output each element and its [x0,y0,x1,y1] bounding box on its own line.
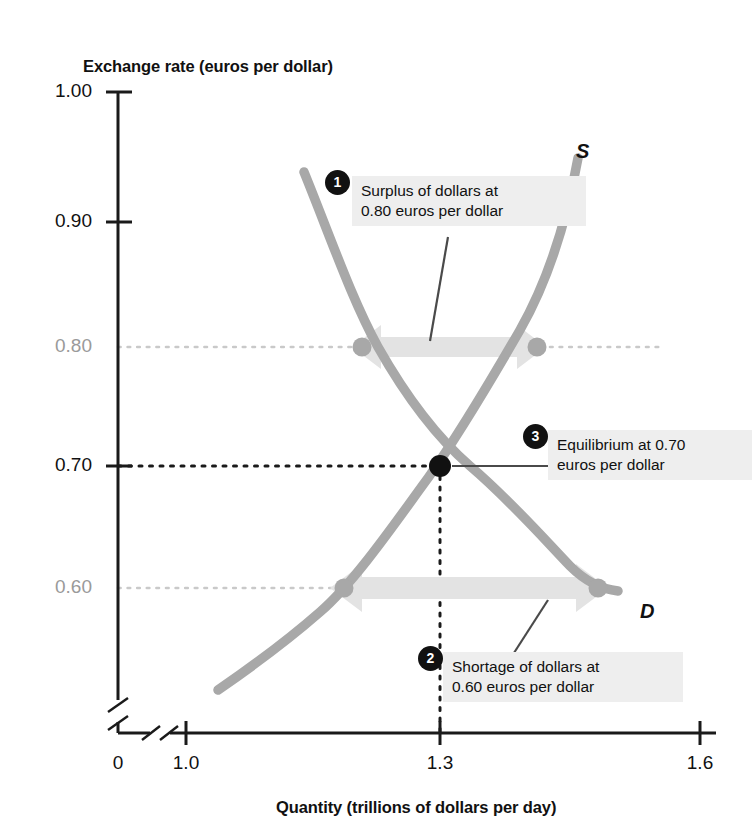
demand-curve [304,172,618,591]
supply-curve-label: S [576,140,589,163]
y-tick-label-090: 0.90 [20,210,92,232]
demand-curve-label: D [640,600,654,623]
callout-2-badge: 2 [418,646,443,671]
supply-curve [218,158,578,690]
callout-2-text: Shortage of dollars at 0.60 euros per do… [443,652,683,702]
callout-3-text: Equilibrium at 0.70 euros per dollar [548,430,752,480]
y-tick-label-080: 0.80 [20,335,92,357]
callout-1-badge: 1 [325,170,350,195]
x-tick-label-16: 1.6 [665,752,735,774]
callout-1-text: Surplus of dollars at 0.80 euros per dol… [352,176,586,226]
x-axis-title: Quantity (trillions of dollars per day) [276,798,556,817]
quantity-demanded-at-080-marker [353,338,372,357]
x-tick-label-13: 1.3 [405,752,475,774]
shortage-arrow [330,564,608,612]
y-tick-label-060: 0.60 [20,576,92,598]
y-axis-title: Exchange rate (euros per dollar) [83,57,333,76]
y-tick-label-100: 1.00 [20,80,92,102]
x-tick-label-0: 0 [83,752,153,774]
callout-1-leader-line [430,237,448,341]
callout-3-badge: 3 [523,424,548,449]
y-tick-label-070: 0.70 [20,454,92,476]
equilibrium-marker [429,455,451,477]
y-axis-break-upper [108,698,128,712]
quantity-supplied-at-080-marker [528,338,547,357]
quantity-demanded-at-060-marker [589,579,608,598]
callout-2-leader-line [512,600,548,656]
x-tick-label-10: 1.0 [151,752,221,774]
quantity-supplied-at-060-marker [335,579,354,598]
